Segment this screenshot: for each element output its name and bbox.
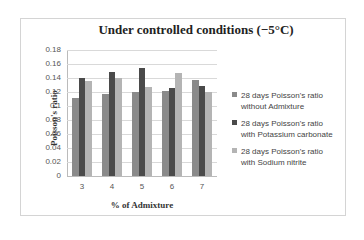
y-tick-label: 0.02 xyxy=(33,157,61,166)
legend-item: 28 days Poisson's ratiowith Sodium nitri… xyxy=(232,146,347,168)
legend-item: 28 days Poisson's ratiowith Potassium ca… xyxy=(232,118,347,140)
legend-label: 28 days Poisson's ratio xyxy=(241,90,347,101)
legend-label: with Sodium nitrite xyxy=(241,157,347,168)
legend-label: without Admixture xyxy=(241,101,347,112)
legend-item: 28 days Poisson's ratiowithout Admixture xyxy=(232,90,347,112)
y-tick-label: 0.1 xyxy=(33,101,61,110)
y-tick-label: 0.08 xyxy=(33,115,61,124)
legend-label: with Potassium carbonate xyxy=(241,129,347,140)
x-tick-label: 4 xyxy=(97,182,127,191)
legend-label: 28 days Poisson's ratio xyxy=(241,146,347,157)
bar xyxy=(85,81,92,176)
y-tick-label: 0.06 xyxy=(33,129,61,138)
x-tick-label: 5 xyxy=(127,182,157,191)
gridline xyxy=(67,64,217,65)
gridline xyxy=(67,50,217,51)
y-tick-label: 0.18 xyxy=(33,45,61,54)
bar xyxy=(175,73,182,176)
legend-swatch-icon xyxy=(232,120,237,125)
bar xyxy=(115,78,122,176)
bar xyxy=(145,87,152,176)
y-tick-label: 0.04 xyxy=(33,143,61,152)
y-tick-label: 0 xyxy=(33,171,61,180)
x-tick-label: 6 xyxy=(157,182,187,191)
plot-area: 00.020.040.060.080.10.120.140.160.183456… xyxy=(67,50,217,176)
legend-swatch-icon xyxy=(232,92,237,97)
x-axis xyxy=(67,176,217,177)
x-tick-label: 7 xyxy=(187,182,217,191)
x-axis-label: % of Admixture xyxy=(67,200,217,210)
bar xyxy=(205,92,212,176)
y-tick-label: 0.14 xyxy=(33,73,61,82)
y-tick-label: 0.16 xyxy=(33,59,61,68)
chart-title: Under controlled conditions (−5°C) xyxy=(96,22,296,38)
y-tick-label: 0.12 xyxy=(33,87,61,96)
x-tick-label: 3 xyxy=(67,182,97,191)
legend-label: 28 days Poisson's ratio xyxy=(241,118,347,129)
legend-swatch-icon xyxy=(232,148,237,153)
legend: 28 days Poisson's ratiowithout Admixture… xyxy=(232,90,347,174)
y-axis xyxy=(67,50,68,176)
